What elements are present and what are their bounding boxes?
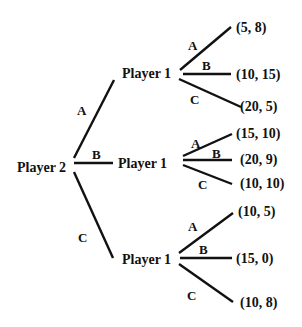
- edge-label-root-a: A: [77, 103, 87, 118]
- edge-label-mid-b: B: [212, 146, 221, 161]
- payoff-top-b: (10, 15): [236, 67, 281, 83]
- node-player-1-bottom: Player 1: [122, 252, 171, 267]
- edge-mid-c: [183, 165, 232, 184]
- payoff-top-a: (5, 8): [236, 20, 267, 36]
- payoff-top-c: (20, 5): [240, 99, 278, 115]
- edge-label-root-b: B: [92, 147, 101, 162]
- edge-label-mid-a: A: [191, 136, 201, 151]
- edge-label-top-b: B: [202, 58, 211, 73]
- edge-label-bot-a: A: [188, 219, 198, 234]
- node-player-1-middle: Player 1: [118, 156, 167, 171]
- payoff-mid-a: (15, 10): [236, 126, 281, 142]
- edge-label-mid-c: C: [198, 177, 207, 192]
- edge-label-root-c: C: [78, 230, 87, 245]
- root-node-player-2: Player 2: [17, 160, 66, 175]
- node-player-1-top: Player 1: [122, 66, 171, 81]
- payoff-bot-c: (10, 8): [240, 295, 278, 311]
- payoff-mid-b: (20, 9): [240, 152, 278, 168]
- edge-root-c: [74, 172, 113, 258]
- game-tree-diagram: Player 2 A B C Player 1 A B C (5, 8) (10…: [0, 0, 302, 327]
- payoff-bot-a: (10, 5): [238, 204, 276, 220]
- payoff-bot-b: (15, 0): [236, 251, 274, 267]
- edge-top-c: [179, 79, 241, 107]
- edge-label-top-a: A: [188, 38, 198, 53]
- edge-label-top-c: C: [190, 92, 199, 107]
- edge-label-bot-b: B: [199, 242, 208, 257]
- payoff-mid-c: (10, 10): [240, 176, 285, 192]
- edge-label-bot-c: C: [187, 288, 196, 303]
